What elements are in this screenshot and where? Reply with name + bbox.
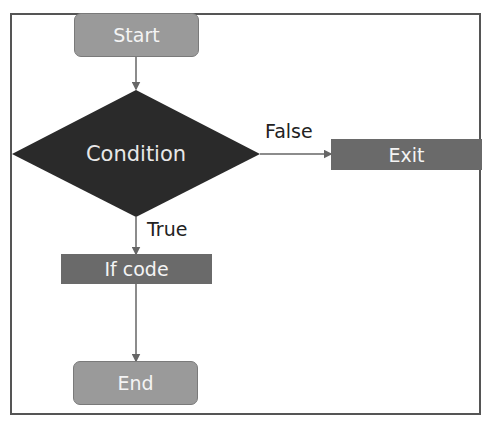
end-node: End (73, 361, 198, 405)
start-node: Start (74, 13, 199, 57)
true-edge-label: True (147, 218, 187, 240)
exit-node: Exit (331, 139, 482, 170)
if-code-node: If code (61, 254, 212, 284)
condition-label: Condition (36, 136, 236, 172)
flow-connectors (0, 0, 489, 426)
false-edge-label: False (265, 120, 313, 142)
